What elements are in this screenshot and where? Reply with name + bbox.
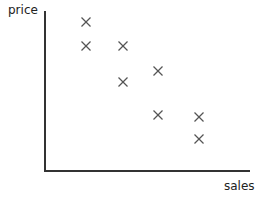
x-marker-icon: [154, 111, 163, 120]
x-marker-icon: [195, 113, 204, 122]
x-marker-icon: [119, 78, 128, 87]
x-marker-icon: [195, 135, 204, 144]
x-marker-icon: [154, 67, 163, 76]
scatter-chart: price sales: [0, 0, 270, 198]
x-marker-icon: [119, 42, 128, 51]
x-marker-icon: [82, 42, 91, 51]
data-points: [0, 0, 270, 198]
x-marker-icon: [82, 18, 91, 27]
